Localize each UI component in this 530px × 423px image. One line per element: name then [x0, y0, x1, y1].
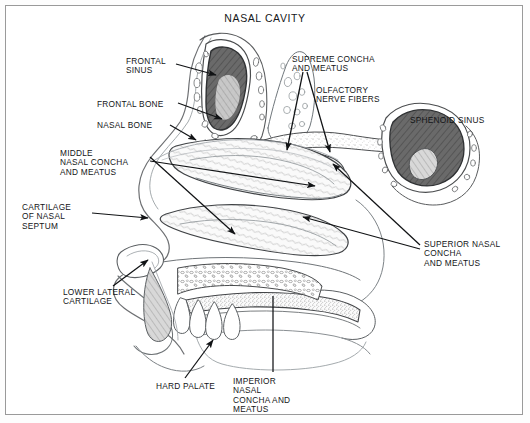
label-cartilage-nasal-septum: CARTILAGE OF NASAL SEPTUM [22, 203, 71, 231]
leader-hard-palate [185, 340, 213, 378]
label-hard-palate: HARD PALATE [156, 382, 215, 391]
middle-nasal-concha [169, 139, 351, 200]
tongue-body [196, 336, 366, 370]
inferior-nasal-concha [160, 205, 348, 256]
label-sphenoid-sinus: SPHENOID SINUS [410, 116, 485, 125]
label-superior-nasal-concha: SUPERIOR NASAL CONCHA AND MEATUS [424, 240, 500, 268]
leader-nasal-bone [170, 125, 196, 140]
nasal-cavity-figure: NASAL CAVITY FRONTAL SINUSFRONTAL BONENA… [0, 0, 530, 423]
label-frontal-bone: FRONTAL BONE [97, 100, 164, 109]
nasopharynx-wall [352, 200, 384, 306]
label-nasal-bone: NASAL BONE [97, 121, 152, 130]
label-lower-lateral-cartilage: LOWER LATERAL CARTILAGE [63, 288, 135, 307]
page-title: NASAL CAVITY [0, 12, 530, 24]
anatomy-illustration [0, 0, 530, 423]
leader-cartilage-septum [92, 213, 148, 218]
anatomy-drawing [113, 33, 479, 371]
label-middle-nasal-concha: MIDDLE NASAL CONCHA AND MEATUS [60, 149, 128, 177]
upper-lip [136, 346, 204, 371]
label-imperior-nasal-concha: IMPERIOR NASAL CONCHA AND MEATUS [233, 377, 290, 415]
label-supreme-concha: SUPREME CONCHA AND MEATUS [292, 55, 375, 74]
label-frontal-sinus: FRONTAL SINUS [126, 57, 166, 76]
nasal-vestibule [144, 268, 172, 341]
label-olfactory-nerve-fibers: OLFACTORY NERVE FIBERS [316, 86, 380, 105]
